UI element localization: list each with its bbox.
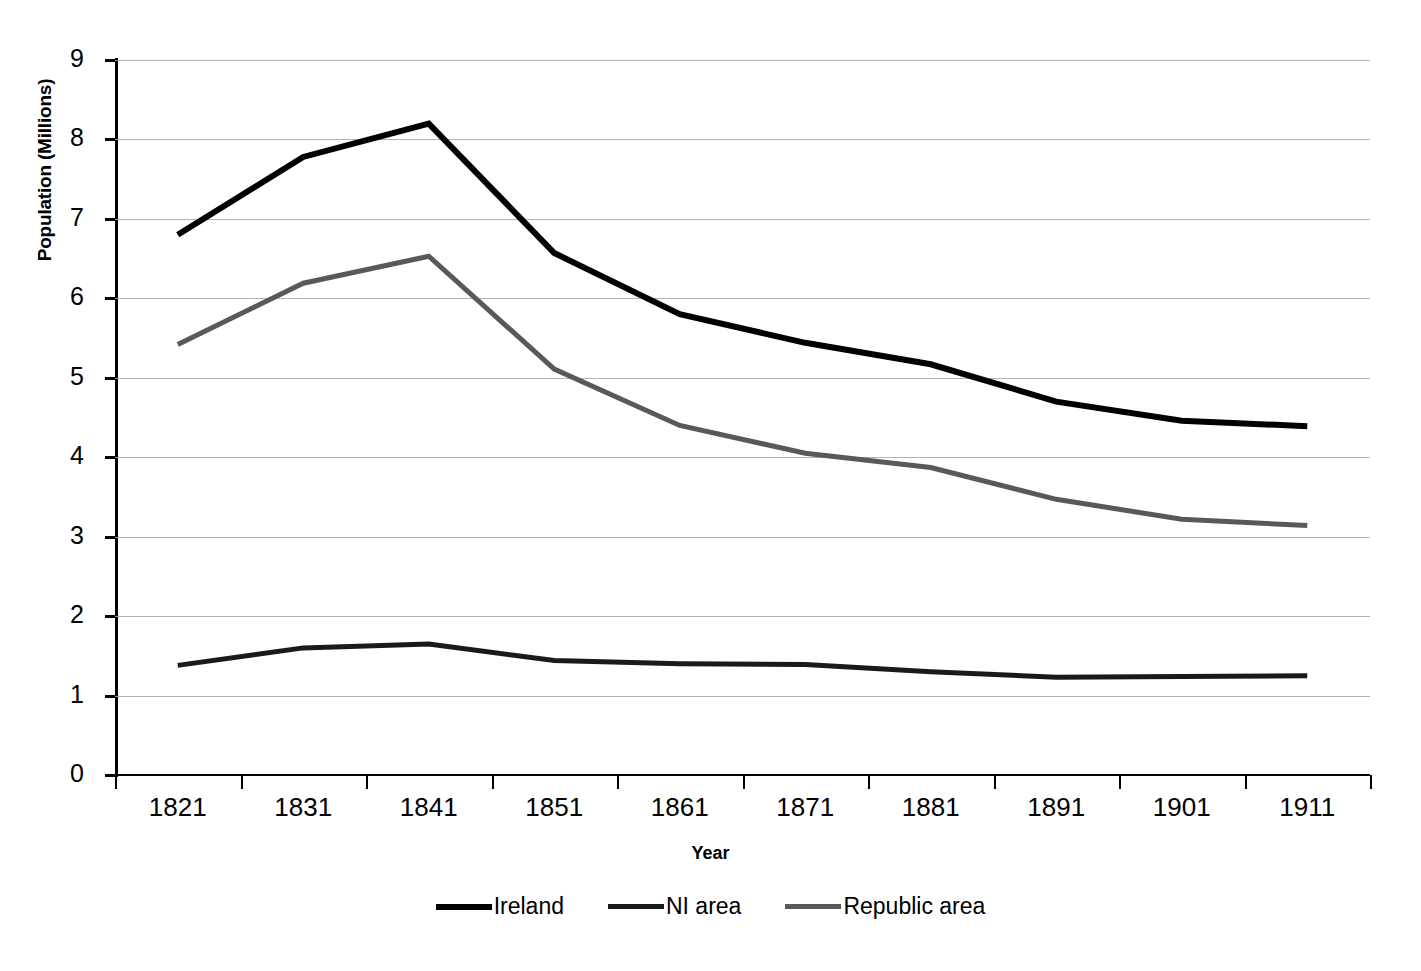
legend-label: NI area — [666, 893, 741, 920]
y-axis-tick-label: 3 — [44, 523, 84, 548]
y-axis-tick-label: 9 — [44, 46, 84, 71]
y-axis-tick-label: 4 — [44, 443, 84, 468]
x-axis-tick-label: 1851 — [492, 792, 618, 823]
y-axis-tick-label: 5 — [44, 364, 84, 389]
x-axis-tick-label: 1831 — [241, 792, 367, 823]
y-axis-tick-label: 7 — [44, 205, 84, 230]
y-axis-tick-label: 8 — [44, 125, 84, 150]
series-line-ni-area — [178, 644, 1308, 677]
x-axis-tick — [1119, 775, 1121, 789]
y-axis-tick-label: 1 — [44, 682, 84, 707]
plot-area — [115, 60, 1370, 775]
x-axis-tick-label: 1891 — [994, 792, 1120, 823]
x-axis-tick — [617, 775, 619, 789]
legend-label: Republic area — [843, 893, 985, 920]
x-axis-title: Year — [0, 843, 1421, 864]
y-axis-tick-label: 6 — [44, 284, 84, 309]
x-axis-tick — [1245, 775, 1247, 789]
x-axis-tick — [492, 775, 494, 789]
x-axis-tick — [743, 775, 745, 789]
x-axis-tick-label: 1911 — [1245, 792, 1371, 823]
x-axis-tick — [366, 775, 368, 789]
x-axis-tick — [868, 775, 870, 789]
y-axis-tick-label: 0 — [44, 761, 84, 786]
series-layer — [115, 60, 1370, 775]
x-axis-tick-label: 1861 — [617, 792, 743, 823]
x-axis-tick — [241, 775, 243, 789]
legend-line-swatch — [785, 904, 841, 909]
x-axis-tick-label: 1841 — [366, 792, 492, 823]
legend-item[interactable]: Ireland — [436, 893, 564, 920]
population-line-chart: Population (Millions) 0123456789 1821183… — [0, 0, 1421, 971]
x-axis-tick-label: 1871 — [743, 792, 869, 823]
x-axis-tick-label: 1901 — [1119, 792, 1245, 823]
legend-line-swatch — [608, 904, 664, 909]
x-axis-tick — [115, 775, 117, 789]
x-axis-tick-label: 1881 — [868, 792, 994, 823]
series-line-republic-area — [178, 256, 1308, 525]
y-axis-title: Population (Millions) — [34, 40, 56, 300]
chart-legend: IrelandNI areaRepublic area — [0, 893, 1421, 920]
legend-line-swatch — [436, 904, 492, 910]
legend-label: Ireland — [494, 893, 564, 920]
y-axis-tick-label: 2 — [44, 602, 84, 627]
x-axis-tick — [994, 775, 996, 789]
legend-item[interactable]: Republic area — [785, 893, 985, 920]
x-axis-tick — [1370, 775, 1372, 789]
legend-item[interactable]: NI area — [608, 893, 741, 920]
x-axis-tick-label: 1821 — [115, 792, 241, 823]
